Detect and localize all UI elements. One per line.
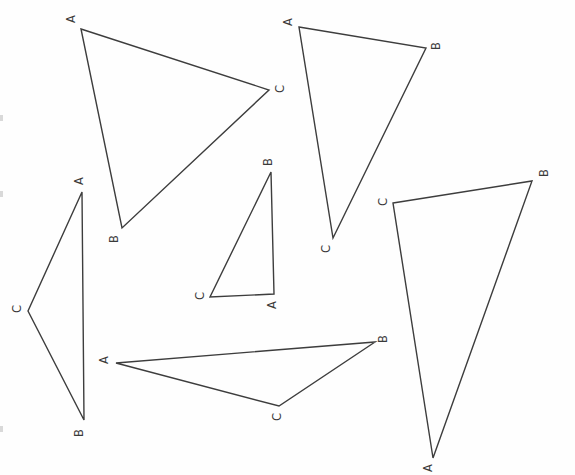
triangle-right-large-vertex-label-A: A <box>421 464 435 472</box>
triangle-bottom-wide-vertex-label-C: C <box>270 413 284 421</box>
triangle-right-large-outline <box>393 181 532 458</box>
triangle-top-right-vertex-label-C: C <box>319 245 333 253</box>
triangle-top-right-vertex-label-B: B <box>429 42 443 50</box>
triangle-left-tall: ACB <box>10 177 86 437</box>
triangle-middle-small-outline <box>210 172 274 297</box>
triangle-right-large: CBA <box>376 169 551 472</box>
scan-edge-artifact-3 <box>0 426 3 432</box>
triangle-middle-small-vertex-label-A: A <box>265 301 279 309</box>
triangle-middle-small: BAC <box>193 158 279 309</box>
triangle-right-large-vertex-label-C: C <box>376 198 390 206</box>
triangle-right-large-vertex-label-B: B <box>537 169 551 177</box>
triangle-left-tall-vertex-label-C: C <box>10 305 24 313</box>
triangle-bottom-wide: ABC <box>97 335 390 421</box>
triangle-middle-small-vertex-label-C: C <box>193 292 207 300</box>
scan-edge-artifact-1 <box>0 115 3 121</box>
triangle-left-tall-vertex-label-B: B <box>72 429 86 437</box>
triangle-top-left-vertex-label-A: A <box>64 15 78 23</box>
triangle-top-right-outline <box>299 27 426 238</box>
scan-edge-artifact-2 <box>0 191 3 197</box>
triangle-top-right: ABC <box>281 18 443 253</box>
triangles-diagram: ACBABCACBBACABCCBA <box>0 0 575 475</box>
triangle-bottom-wide-vertex-label-A: A <box>97 356 111 364</box>
triangle-bottom-wide-vertex-label-B: B <box>376 335 390 343</box>
triangle-bottom-wide-outline <box>116 342 375 406</box>
triangle-top-left-outline <box>81 29 269 228</box>
triangle-top-left-vertex-label-C: C <box>273 85 287 93</box>
triangle-left-tall-outline <box>28 192 84 420</box>
triangle-left-tall-vertex-label-A: A <box>72 177 86 185</box>
triangle-middle-small-vertex-label-B: B <box>261 158 275 166</box>
triangle-top-left-vertex-label-B: B <box>107 235 121 243</box>
triangle-top-right-vertex-label-A: A <box>281 18 295 26</box>
scanned-worksheet-page: ACBABCACBBACABCCBA <box>0 0 575 475</box>
